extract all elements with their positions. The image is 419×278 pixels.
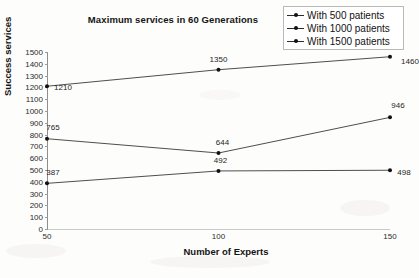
legend-item-2: With 1500 patients — [287, 35, 400, 48]
series-line — [47, 117, 390, 153]
x-axis-title: Number of Experts — [0, 246, 408, 257]
data-point-label: 946 — [391, 101, 404, 110]
y-tick-label: 800 — [9, 130, 43, 139]
legend-label: With 1000 patients — [307, 23, 390, 34]
data-point-marker — [217, 151, 221, 155]
y-tick-label: 200 — [9, 201, 43, 210]
data-point-label: 1350 — [210, 54, 228, 63]
chart-title: Maximum services in 60 Generations — [62, 14, 284, 25]
data-point-label: 1460 — [401, 56, 419, 65]
data-point-marker — [45, 84, 49, 88]
y-tick-label: 1500 — [9, 48, 43, 57]
legend: With 500 patients With 1000 patients Wit… — [283, 6, 404, 50]
legend-marker-icon — [287, 24, 304, 34]
x-axis-title-text: Number of Experts — [184, 246, 269, 257]
data-point-marker — [388, 55, 392, 59]
data-point-label: 492 — [214, 155, 227, 164]
y-tick-label: 1100 — [9, 95, 43, 104]
data-point-label: 644 — [216, 138, 229, 147]
y-tick-label: 100 — [9, 213, 43, 222]
y-tick-label: 1300 — [9, 71, 43, 80]
x-axis-line — [47, 229, 390, 230]
data-point-marker — [217, 68, 221, 72]
scan-artifact — [150, 256, 270, 268]
y-tick-label: 300 — [9, 189, 43, 198]
y-tick-label: 400 — [9, 177, 43, 186]
data-point-marker — [388, 115, 392, 119]
x-tick-label: 50 — [43, 232, 52, 241]
y-tick-label: 500 — [9, 166, 43, 175]
y-tick-label: 0 — [9, 225, 43, 234]
y-tick-label: 1000 — [9, 107, 43, 116]
data-point-marker — [45, 137, 49, 141]
data-point-label: 1210 — [54, 83, 72, 92]
legend-label: With 500 patients — [307, 10, 384, 21]
data-point-marker — [217, 169, 221, 173]
plot-area: 0100200300400500600700800900100011001200… — [47, 52, 390, 229]
data-point-marker — [45, 181, 49, 185]
y-tick-label: 1400 — [9, 59, 43, 68]
x-tick-label: 100 — [212, 232, 225, 241]
y-tick-mark — [45, 229, 48, 230]
data-point-label: 387 — [46, 168, 59, 177]
legend-label: With 1500 patients — [307, 36, 390, 47]
data-point-marker — [388, 168, 392, 172]
legend-item-0: With 500 patients — [287, 9, 400, 22]
legend-item-1: With 1000 patients — [287, 22, 400, 35]
x-tick-label: 150 — [383, 232, 396, 241]
data-point-label: 765 — [46, 122, 59, 131]
data-point-label: 498 — [397, 168, 410, 177]
y-tick-label: 1200 — [9, 83, 43, 92]
legend-marker-icon — [287, 11, 304, 21]
y-tick-label: 900 — [9, 118, 43, 127]
y-tick-label: 700 — [9, 142, 43, 151]
legend-marker-icon — [287, 37, 304, 47]
y-tick-label: 600 — [9, 154, 43, 163]
